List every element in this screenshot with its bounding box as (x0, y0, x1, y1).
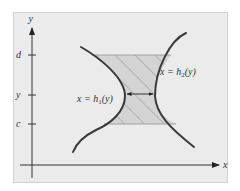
region-diagram: y x d y c x = h1(y) x = h2(y) (0, 0, 240, 191)
curve-h2 (155, 33, 194, 147)
x-axis-label: x (222, 159, 228, 170)
label-h1: x = h1(y) (76, 93, 113, 106)
y-axis-label: y (28, 13, 34, 24)
label-h2: x = h2(y) (159, 66, 196, 79)
tick-label-y: y (15, 89, 21, 100)
axes (20, 28, 219, 178)
tick-label-d: d (16, 49, 22, 60)
tick-label-c: c (16, 118, 21, 129)
